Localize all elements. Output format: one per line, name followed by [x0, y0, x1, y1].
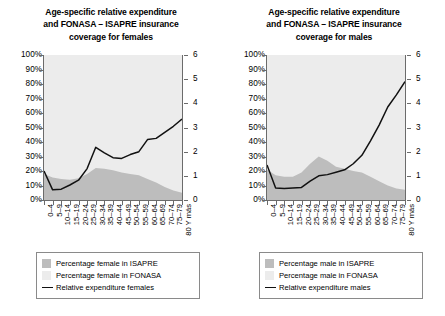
- x-tick-label-males-12: 60–64: [374, 204, 382, 225]
- x-axis-labels-females: 0–45–910–1415–1920–2425–2930–3435–3940–4…: [44, 204, 182, 252]
- y-tick-label-left-females-6: 60%: [8, 109, 42, 117]
- legend-item-isapre-males: Percentage male in ISAPRE: [265, 258, 417, 269]
- y-tick-label-right-males-1: 1: [416, 172, 421, 180]
- x-tick-label-males-5: 25–29: [313, 204, 321, 225]
- y-tick-mark-right-males-6: [407, 55, 411, 56]
- legend-item-fonasa-females: Percentage female in FONASA: [42, 270, 194, 281]
- plot-canvas-males: [267, 55, 405, 200]
- legend-swatch-fonasa-icon: [42, 271, 51, 280]
- y-tick-label-left-males-6: 60%: [231, 109, 265, 117]
- y-tick-label-right-males-2: 2: [416, 148, 421, 156]
- y-tick-label-left-females-3: 30%: [8, 153, 42, 161]
- y-tick-label-left-females-9: 90%: [8, 66, 42, 74]
- y-tick-label-left-males-2: 20%: [231, 167, 265, 175]
- y-tick-mark-right-males-4: [407, 103, 411, 104]
- legend-item-fonasa-males: Percentage male in FONASA: [265, 270, 417, 281]
- x-tick-label-females-16: 80 Y más: [185, 204, 193, 236]
- legend-swatch-isapre-icon: [265, 259, 274, 268]
- legend-label-line-males: Relative expenditure males: [279, 283, 371, 292]
- y-tick-label-left-males-4: 40%: [231, 138, 265, 146]
- x-tick-label-males-2: 10–14: [287, 204, 295, 225]
- chart-title-females: Age-specific relative expenditure and FO…: [8, 6, 214, 43]
- chart-title-line-2: and FONASA – ISAPRE insurance: [8, 18, 214, 30]
- y-tick-label-right-females-4: 4: [193, 99, 198, 107]
- legend-swatch-fonasa-icon: [265, 271, 274, 280]
- plot-area-females: 0%10%20%30%40%50%60%70%80%90%100% 012345…: [0, 55, 222, 200]
- y-tick-label-left-males-1: 10%: [231, 182, 265, 190]
- y-tick-label-right-males-6: 6: [416, 51, 421, 59]
- y-tick-mark-right-females-0: [184, 200, 188, 201]
- plot-area-males: 0%10%20%30%40%50%60%70%80%90%100% 012345…: [223, 55, 445, 200]
- y-tick-mark-right-females-6: [184, 55, 188, 56]
- y-tick-mark-right-males-1: [407, 176, 411, 177]
- y-tick-mark-right-females-4: [184, 103, 188, 104]
- legend-males: Percentage male in ISAPRE Percentage mal…: [259, 252, 423, 299]
- axis-vertical-right-females: [182, 55, 183, 201]
- axis-vertical-left-females: [43, 55, 44, 201]
- y-tick-label-left-females-2: 20%: [8, 167, 42, 175]
- y-tick-label-left-males-3: 30%: [231, 153, 265, 161]
- x-tick-label-females-2: 10–14: [64, 204, 72, 225]
- y-tick-label-left-females-8: 80%: [8, 80, 42, 88]
- x-tick-label-females-7: 35–39: [107, 204, 115, 225]
- y-axis-right-females: 0123456: [184, 55, 218, 200]
- legend-line-marker-icon: [42, 287, 53, 288]
- x-tick-label-males-3: 15–19: [296, 204, 304, 225]
- legend-label-isapre-females: Percentage female in ISAPRE: [56, 259, 158, 268]
- legend-females: Percentage female in ISAPRE Percentage f…: [36, 252, 200, 299]
- y-tick-label-right-females-3: 3: [193, 124, 198, 132]
- axis-vertical-right-males: [405, 55, 406, 201]
- x-tick-label-females-3: 15–19: [73, 204, 81, 225]
- x-tick-label-females-8: 40–44: [116, 204, 124, 225]
- x-tick-label-males-0: 0–4: [270, 204, 278, 217]
- y-tick-label-left-females-5: 50%: [8, 124, 42, 132]
- plot-svg-females: [44, 55, 182, 200]
- y-tick-mark-right-females-2: [184, 152, 188, 153]
- x-tick-label-males-15: 75–79: [399, 204, 407, 225]
- legend-label-isapre-males: Percentage male in ISAPRE: [279, 259, 374, 268]
- x-tick-label-females-0: 0–4: [47, 204, 55, 217]
- y-tick-label-left-males-8: 80%: [231, 80, 265, 88]
- chart-title-line-3: coverage for males: [231, 31, 437, 43]
- x-tick-label-males-10: 50–54: [356, 204, 364, 225]
- chart-title-line-1: Age-specific relative expenditure: [8, 6, 214, 18]
- chart-title-males: Age-specific relative expenditure and FO…: [231, 6, 437, 43]
- y-tick-label-left-males-10: 100%: [231, 51, 265, 59]
- chart-panel-females: Age-specific relative expenditure and FO…: [0, 0, 222, 316]
- x-tick-label-males-11: 55–59: [365, 204, 373, 225]
- x-tick-label-females-12: 60–64: [151, 204, 159, 225]
- chart-panel-males: Age-specific relative expenditure and FO…: [223, 0, 445, 316]
- y-tick-mark-right-males-5: [407, 79, 411, 80]
- x-tick-label-females-10: 50–54: [133, 204, 141, 225]
- x-tick-label-males-4: 20–24: [305, 204, 313, 225]
- y-tick-mark-right-females-5: [184, 79, 188, 80]
- y-tick-mark-right-males-3: [407, 128, 411, 129]
- y-tick-label-right-females-2: 2: [193, 148, 198, 156]
- legend-label-fonasa-males: Percentage male in FONASA: [279, 271, 378, 280]
- x-tick-label-females-11: 55–59: [142, 204, 150, 225]
- y-axis-left-males: 0%10%20%30%40%50%60%70%80%90%100%: [227, 55, 265, 200]
- y-axis-left-females: 0%10%20%30%40%50%60%70%80%90%100%: [4, 55, 42, 200]
- x-tick-label-females-5: 25–29: [90, 204, 98, 225]
- legend-item-line-males: Relative expenditure males: [265, 282, 417, 293]
- y-tick-label-left-females-0: 0%: [8, 196, 42, 204]
- y-tick-label-right-males-5: 5: [416, 75, 421, 83]
- chart-title-line-3: coverage for females: [8, 31, 214, 43]
- figure-root: Age-specific relative expenditure and FO…: [0, 0, 445, 316]
- plot-canvas-females: [44, 55, 182, 200]
- legend-item-line-females: Relative expenditure females: [42, 282, 194, 293]
- y-tick-mark-right-males-2: [407, 152, 411, 153]
- y-tick-label-right-females-6: 6: [193, 51, 198, 59]
- y-tick-label-left-males-9: 90%: [231, 66, 265, 74]
- x-tick-label-males-16: 80 Y más: [408, 204, 416, 236]
- y-tick-label-left-males-7: 70%: [231, 95, 265, 103]
- legend-line-marker-icon: [265, 287, 276, 288]
- y-tick-label-left-females-7: 70%: [8, 95, 42, 103]
- y-tick-label-right-males-0: 0: [416, 196, 421, 204]
- axis-vertical-left-males: [266, 55, 267, 201]
- y-tick-mark-right-males-0: [407, 200, 411, 201]
- legend-swatch-isapre-icon: [42, 259, 51, 268]
- x-tick-label-males-13: 65–69: [382, 204, 390, 225]
- y-tick-label-left-males-5: 50%: [231, 124, 265, 132]
- y-tick-label-left-females-10: 100%: [8, 51, 42, 59]
